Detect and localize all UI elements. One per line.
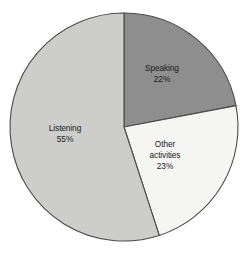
pie-label-other-activities: Other activities 23%: [129, 139, 201, 172]
pie-label-other-activities-value: 23%: [129, 161, 201, 172]
pie-label-speaking: Speaking 22%: [126, 63, 198, 85]
pie-label-listening: Listening 55%: [29, 123, 101, 145]
pie-label-speaking-name: Speaking: [126, 63, 198, 74]
pie-chart: Speaking 22% Other activities 23% Listen…: [0, 0, 244, 258]
pie-label-other-activities-name-line1: Other: [129, 139, 201, 150]
pie-label-speaking-value: 22%: [126, 74, 198, 85]
pie-label-other-activities-name-line2: activities: [129, 150, 201, 161]
pie-label-listening-name: Listening: [29, 123, 101, 134]
pie-label-listening-value: 55%: [29, 134, 101, 145]
